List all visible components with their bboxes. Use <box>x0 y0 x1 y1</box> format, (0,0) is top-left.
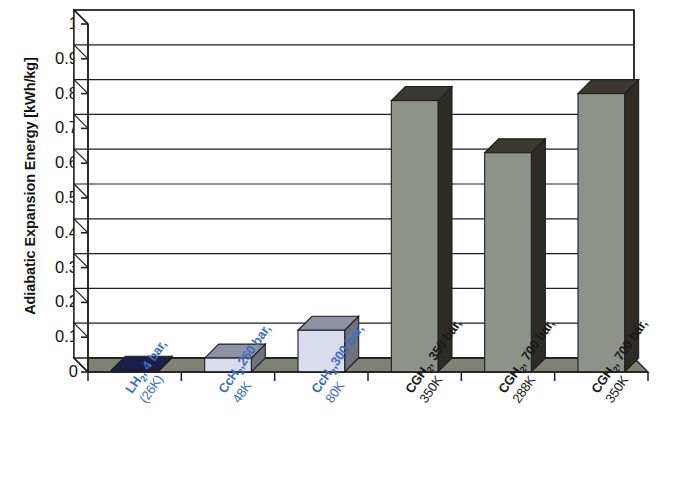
bar-front-face <box>485 153 532 372</box>
bar-chart: Adiabatic Expansion Energy [kWh/kg] 10.9… <box>0 0 684 496</box>
plot-area <box>0 0 684 496</box>
bar-front-face <box>578 94 625 372</box>
x-axis-line <box>88 372 648 381</box>
bar-front-face <box>391 101 438 372</box>
